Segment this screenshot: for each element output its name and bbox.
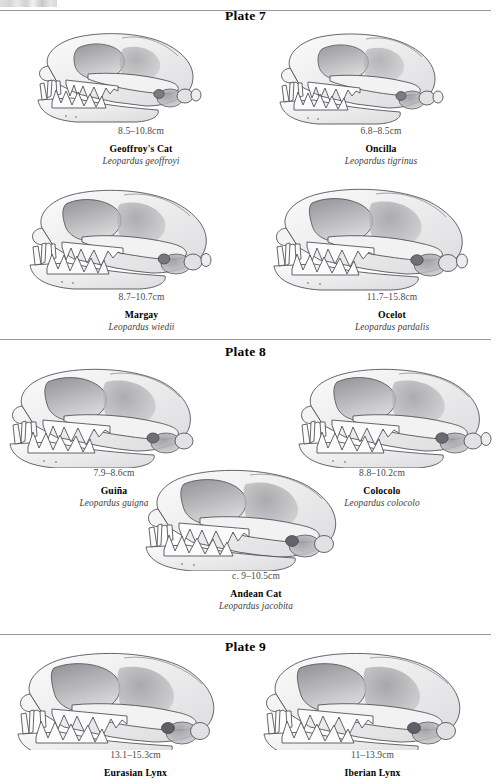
scientific-name-label: Leopardus tigrinus xyxy=(304,156,458,167)
section-divider-plate-9 xyxy=(0,634,491,635)
cat-skull-lateral-icon xyxy=(285,362,496,468)
scientific-name-label: Leopardus geoffroyi xyxy=(64,156,218,167)
specimen-iberian-lynx: 11–13.9cm Iberian Lynx xyxy=(250,652,465,780)
specimen-caption: c. 9–10.5cm Andean Cat Leopardus jacobit… xyxy=(172,571,340,613)
common-name-label: Ocelot xyxy=(306,309,478,321)
specimen-margay: 8.7–10.7cm Margay Leopardus wiedii xyxy=(8,180,223,334)
common-name-label: Oncilla xyxy=(304,143,458,155)
specimen-eurasian-lynx: 13.1–15.3cm Eurasian Lynx xyxy=(4,652,219,780)
common-name-label: Iberian Lynx xyxy=(280,767,465,779)
specimen-oncilla: 6.8–8.5cm Oncilla Leopardus tigrinus xyxy=(258,22,458,168)
plate-heading-8: Plate 8 xyxy=(0,344,491,360)
specimen-caption: 11–13.9cm Iberian Lynx xyxy=(280,750,465,778)
measurement-label: c. 9–10.5cm xyxy=(172,571,340,583)
scientific-name-label: Leopardus pardalis xyxy=(306,322,478,333)
cat-skull-lateral-icon xyxy=(128,463,340,571)
common-name-label: Andean Cat xyxy=(172,588,340,600)
common-name-label: Eurasian Lynx xyxy=(52,767,219,779)
scientific-name-label: Leopardus wiedii xyxy=(60,322,223,333)
measurement-label: 8.5–10.8cm xyxy=(64,126,218,138)
measurement-label: 8.7–10.7cm xyxy=(60,292,223,304)
cat-skull-lateral-icon xyxy=(250,652,465,750)
cat-skull-lateral-icon xyxy=(4,652,219,750)
specimen-caption: 6.8–8.5cm Oncilla Leopardus tigrinus xyxy=(304,126,458,168)
specimen-geoffroys-cat: 8.5–10.8cm Geoffroy's Cat Leopardus geof… xyxy=(18,22,218,168)
measurement-label: 6.8–8.5cm xyxy=(304,126,458,138)
scientific-name-label: Leopardus jacobita xyxy=(172,601,340,612)
cat-skull-lateral-icon xyxy=(250,180,478,292)
cat-skull-lateral-icon xyxy=(8,180,223,292)
specimen-ocelot: 11.7–15.8cm Ocelot Leopardus pardalis xyxy=(250,180,478,334)
cat-skull-lateral-icon xyxy=(18,22,218,126)
common-name-label: Margay xyxy=(60,309,223,321)
measurement-label: 11–13.9cm xyxy=(280,750,465,762)
measurement-label: 11.7–15.8cm xyxy=(306,292,478,304)
specimen-caption: 8.7–10.7cm Margay Leopardus wiedii xyxy=(60,292,223,334)
cropped-header-artifact xyxy=(0,0,57,7)
specimen-caption: 11.7–15.8cm Ocelot Leopardus pardalis xyxy=(306,292,478,334)
measurement-label: 13.1–15.3cm xyxy=(52,750,219,762)
specimen-caption: 8.5–10.8cm Geoffroy's Cat Leopardus geof… xyxy=(64,126,218,168)
common-name-label: Geoffroy's Cat xyxy=(64,143,218,155)
section-divider-plate-8 xyxy=(0,339,491,340)
specimen-caption: 13.1–15.3cm Eurasian Lynx xyxy=(52,750,219,778)
cat-skull-lateral-icon xyxy=(258,22,458,126)
cat-skull-lateral-icon xyxy=(0,362,206,468)
specimen-andean-cat: c. 9–10.5cm Andean Cat Leopardus jacobit… xyxy=(128,463,340,613)
